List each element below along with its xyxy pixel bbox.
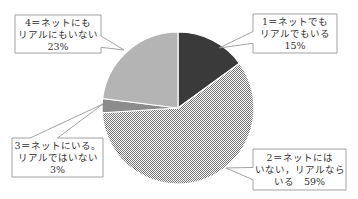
callout-text-line: リアルでもいる [260, 28, 330, 39]
callout-text-line: 1＝ネットでも [262, 16, 328, 27]
callout-label-2: 2＝ネットにはいない，リアルならいる 59% [226, 149, 346, 190]
callout-label-4: 4＝ネットにもリアルにもいない23% [15, 15, 124, 53]
pie-slices [102, 32, 254, 184]
callout-text-line: リアルではいない [18, 152, 98, 163]
callout-text-line: 4＝ネットにも [25, 17, 91, 28]
callout-text-line: いない，リアルなら [255, 164, 345, 175]
callout-text-line: 3% [50, 164, 65, 175]
callout-text-line: 3＝ネットにいる。 [14, 140, 100, 151]
pie-chart-canvas: 1＝ネットでもリアルでもいる15%2＝ネットにはいない，リアルならいる 59%3… [0, 0, 358, 199]
callout-text-line: リアルにもいない [18, 29, 98, 40]
callout-text-line: 23% [47, 41, 68, 52]
pie-chart: 1＝ネットでもリアルでもいる15%2＝ネットにはいない，リアルならいる 59%3… [0, 0, 358, 199]
callout-text-line: 2＝ネットには [266, 152, 332, 163]
callout-label-1: 1＝ネットでもリアルでもいる15% [219, 14, 337, 53]
callout-text-line: いる 59% [274, 176, 325, 187]
callout-label-3: 3＝ネットにいる。リアルではいない3% [12, 104, 103, 177]
callout-text-line: 15% [284, 40, 305, 51]
